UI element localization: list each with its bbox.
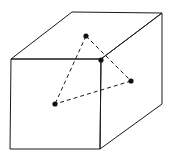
point-P3: [128, 78, 133, 83]
dashed-edge-P1-P4: [55, 36, 86, 104]
cube-diagram: [0, 0, 174, 160]
dashed-edge-P3-P4: [55, 81, 131, 104]
triangle-dashed-edges: [55, 36, 131, 104]
cube: [10, 12, 162, 149]
point-P4: [52, 101, 57, 106]
point-P2: [98, 57, 103, 62]
point-P1: [83, 33, 88, 38]
triangle-vertices: [52, 33, 133, 106]
